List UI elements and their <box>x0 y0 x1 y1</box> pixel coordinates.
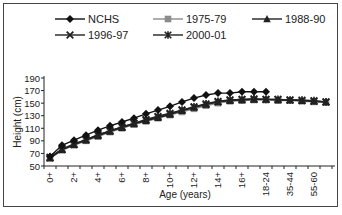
y-tick-label: 150 <box>24 98 40 109</box>
series-1975-79 <box>47 97 330 162</box>
x-axis-title: Age (years) <box>159 189 211 200</box>
x-tick-label: 14+ <box>212 172 223 189</box>
series-1988-90 <box>46 95 330 161</box>
x-tick-label: 10+ <box>164 172 175 189</box>
y-tick-label: 130 <box>24 110 40 121</box>
y-tick-label: 110 <box>25 123 40 134</box>
x-tick-label: 12+ <box>188 172 199 189</box>
y-tick-label: 90 <box>29 135 40 146</box>
legend-label: 1988-90 <box>285 13 325 25</box>
legend-item-2000-01: 2000-01 <box>153 29 226 41</box>
legend-label: 2000-01 <box>186 29 226 41</box>
x-tick-label: 4+ <box>92 172 103 183</box>
y-tick-label: 170 <box>24 85 40 96</box>
y-tick-label: 50 <box>29 161 40 172</box>
x-tick-label: 0+ <box>44 172 55 183</box>
y-tick-label: 190 <box>24 73 40 84</box>
x-tick-label: 8+ <box>140 172 151 183</box>
legend-label: NCHS <box>88 13 119 25</box>
legend-label: 1975-79 <box>186 13 226 25</box>
legend: NCHS1975-791988-901996-972000-01 <box>55 13 325 41</box>
line-chart: NCHS1975-791988-901996-972000-01 5070901… <box>0 0 342 215</box>
y-axis-title: Height (cm) <box>12 96 23 148</box>
legend-item-1988-90: 1988-90 <box>252 13 325 25</box>
x-tick-label: 2+ <box>68 172 79 183</box>
y-axis: 507090110130150170190 <box>24 73 44 172</box>
y-tick-label: 70 <box>29 148 40 159</box>
x-tick-label: 18-24 <box>260 172 271 196</box>
x-tick-label: 6+ <box>116 172 127 183</box>
legend-item-1975-79: 1975-79 <box>153 13 226 25</box>
legend-label: 1996-97 <box>88 29 128 41</box>
legend-item-nchs: NCHS <box>55 13 119 25</box>
x-tick-label: 16+ <box>236 172 247 189</box>
series-2000-01 <box>47 95 330 161</box>
plot-area <box>46 88 330 162</box>
series-1996-97 <box>47 96 330 161</box>
x-tick-label: 35-44 <box>284 172 295 196</box>
x-tick-label: 55-60 <box>308 172 319 196</box>
legend-item-1996-97: 1996-97 <box>55 29 128 41</box>
series-nchs <box>46 88 270 161</box>
